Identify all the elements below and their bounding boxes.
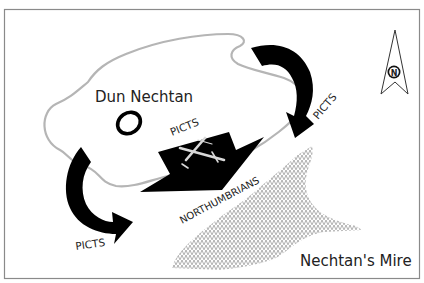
battle-map: N Dun Nechtan PICTS PICTS PICTS NORTHUMB… [0, 0, 424, 283]
mire-label: Nechtan's Mire [300, 252, 412, 270]
fort-label: Dun Nechtan [95, 88, 193, 106]
compass-letter: N [391, 69, 398, 78]
